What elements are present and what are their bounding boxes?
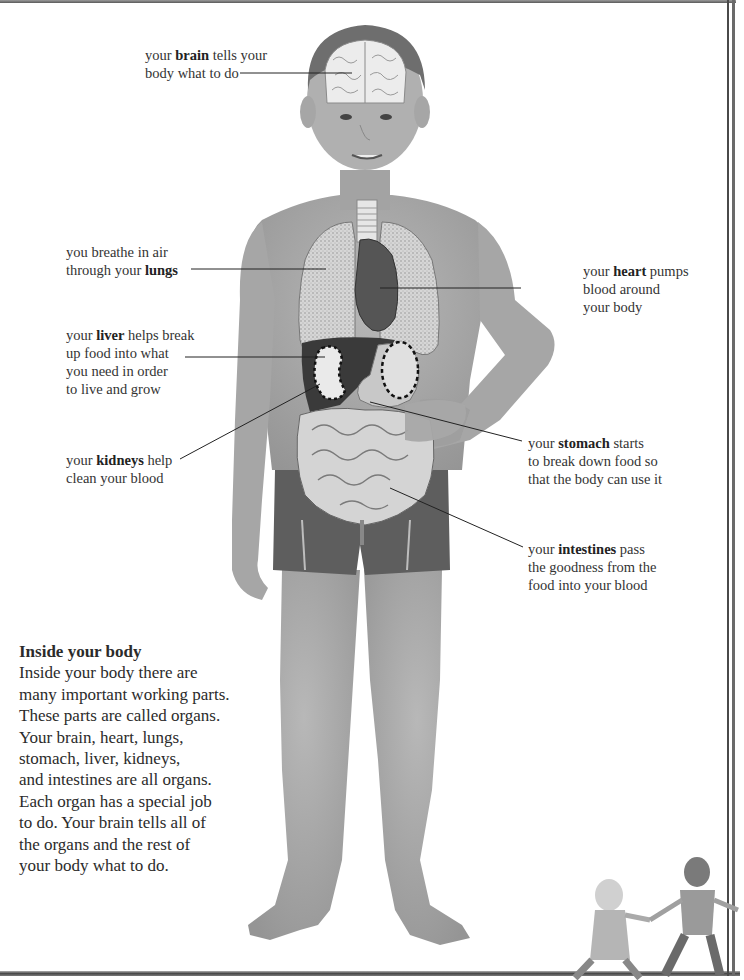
label-kidneys: your kidneys help clean your blood	[66, 451, 172, 487]
label-liver: your liver helps break up food into what…	[66, 326, 194, 398]
article-line: These parts are called organs.	[19, 706, 220, 725]
article-line: Inside your body there are	[19, 663, 197, 682]
trachea	[357, 200, 377, 242]
article-heading: Inside your body	[19, 641, 259, 662]
article-line: many important working parts.	[19, 685, 230, 704]
legs	[248, 570, 470, 945]
article-line: to do. Your brain tells all of	[19, 813, 206, 832]
article-line: your body what to do.	[19, 856, 169, 875]
head	[300, 25, 430, 170]
label-intestines: your intestines pass the goodness from t…	[528, 540, 656, 594]
label-stomach: your stomach starts to break down food s…	[528, 434, 662, 488]
kidney-outline-right	[382, 342, 418, 398]
label-heart: your heart pumps blood around your body	[583, 262, 689, 316]
label-brain: your brain tells your body what to do	[145, 46, 267, 82]
running-children-illustration	[575, 857, 738, 978]
article-line: the organs and the rest of	[19, 835, 190, 854]
article-line: Your brain, heart, lungs,	[19, 728, 183, 747]
article-block: Inside your body Inside your body there …	[19, 641, 259, 876]
brain-illustration	[325, 40, 406, 103]
article-line: stomach, liver, kidneys,	[19, 749, 180, 768]
label-lungs: you breathe in air through your lungs	[66, 243, 178, 279]
article-line: and intestines are all organs.	[19, 770, 212, 789]
article-line: Each organ has a special job	[19, 792, 212, 811]
